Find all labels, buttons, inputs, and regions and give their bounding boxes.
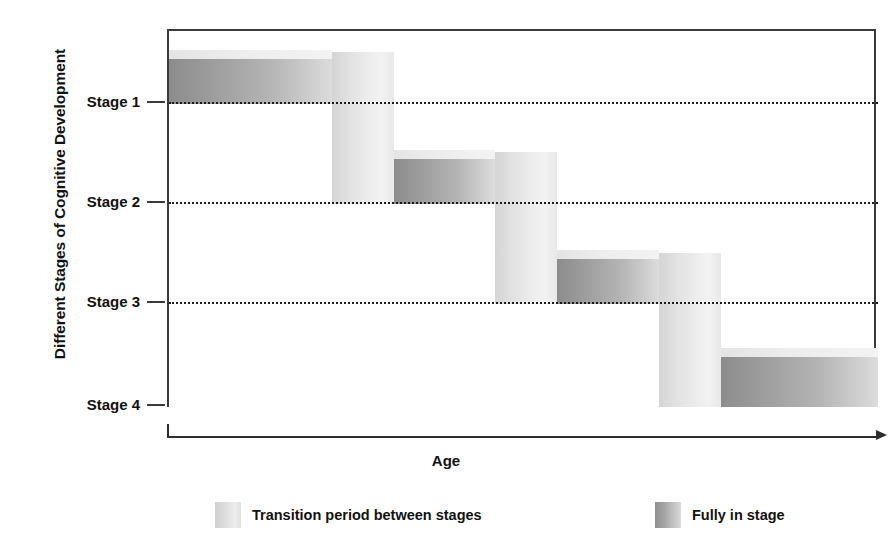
gridline-stage-2 (169, 202, 878, 204)
y-tick-label: Stage 2 (48, 194, 140, 209)
bar-fully-stage-4 (721, 357, 878, 407)
bar-cap-stage-2 (394, 150, 495, 159)
legend-swatch-icon-fully (655, 502, 681, 528)
y-tick-dash-4 (147, 404, 165, 406)
legend-swatch-icon-transition (215, 502, 241, 528)
y-tick-stage-3: Stage 3 (48, 294, 140, 310)
y-tick-dash-1 (147, 101, 165, 103)
y-tick-stage-2: Stage 2 (48, 194, 140, 210)
y-tick-label: Stage 4 (48, 397, 140, 412)
bar-fully-stage-1 (169, 59, 332, 104)
bar-transition-3 (659, 253, 721, 407)
legend-label: Transition period between stages (252, 507, 482, 523)
bar-fully-stage-2 (394, 159, 495, 204)
bar-cap-stage-4 (721, 348, 878, 357)
plot-area (167, 29, 876, 405)
legend-item-transition: Transition period between stages (215, 500, 482, 530)
bar-cap-stage-3 (557, 250, 659, 259)
y-tick-dash-3 (147, 301, 165, 303)
x-axis-arrow-icon (876, 430, 887, 440)
legend-item-fully: Fully in stage (655, 500, 785, 530)
legend-label: Fully in stage (692, 507, 785, 523)
bar-transition-2 (495, 152, 557, 304)
y-tick-stage-1: Stage 1 (48, 94, 140, 110)
gridline-stage-1 (169, 102, 878, 104)
y-tick-label: Stage 1 (48, 94, 140, 109)
bar-transition-1 (332, 52, 394, 204)
gridline-stage-3 (169, 302, 878, 304)
y-tick-label: Stage 3 (48, 294, 140, 309)
bar-cap-stage-1 (169, 50, 332, 59)
x-axis-title: Age (0, 452, 892, 469)
chart-canvas: Different Stages of Cognitive Developmen… (0, 0, 892, 548)
x-axis-line (167, 436, 880, 438)
y-tick-dash-2 (147, 201, 165, 203)
bar-fully-stage-3 (557, 259, 659, 304)
chart-legend: Transition period between stages Fully i… (0, 500, 892, 536)
y-tick-stage-4: Stage 4 (48, 397, 140, 413)
